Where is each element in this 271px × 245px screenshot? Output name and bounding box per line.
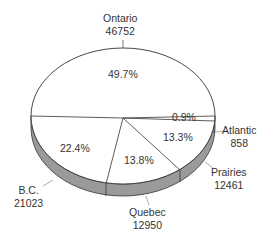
pct-quebec: 13.8% [124, 154, 154, 166]
label-quebec-value: 12950 [129, 219, 166, 232]
label-prairies: Prairies 12461 [211, 166, 247, 192]
label-atlantic: Atlantic 858 [222, 124, 256, 150]
label-quebec-name: Quebec [129, 206, 166, 219]
label-bc-value: 21023 [14, 197, 43, 210]
pct-bc: 22.4% [60, 142, 90, 154]
pct-ontario: 49.7% [108, 68, 138, 80]
leader-quebec [146, 196, 149, 205]
label-atlantic-value: 858 [222, 137, 256, 150]
label-bc-name: B.C. [14, 184, 43, 197]
leader-bc [43, 180, 53, 186]
pct-prairies: 13.3% [163, 131, 193, 143]
label-ontario-value: 46752 [103, 25, 137, 38]
label-ontario: Ontario 46752 [103, 12, 137, 38]
label-bc: B.C. 21023 [14, 184, 43, 210]
label-atlantic-name: Atlantic [222, 124, 256, 137]
label-prairies-name: Prairies [211, 166, 247, 179]
label-ontario-name: Ontario [103, 12, 137, 25]
label-prairies-value: 12461 [211, 179, 247, 192]
pct-atlantic: 0.9% [172, 111, 196, 123]
label-quebec: Quebec 12950 [129, 206, 166, 232]
